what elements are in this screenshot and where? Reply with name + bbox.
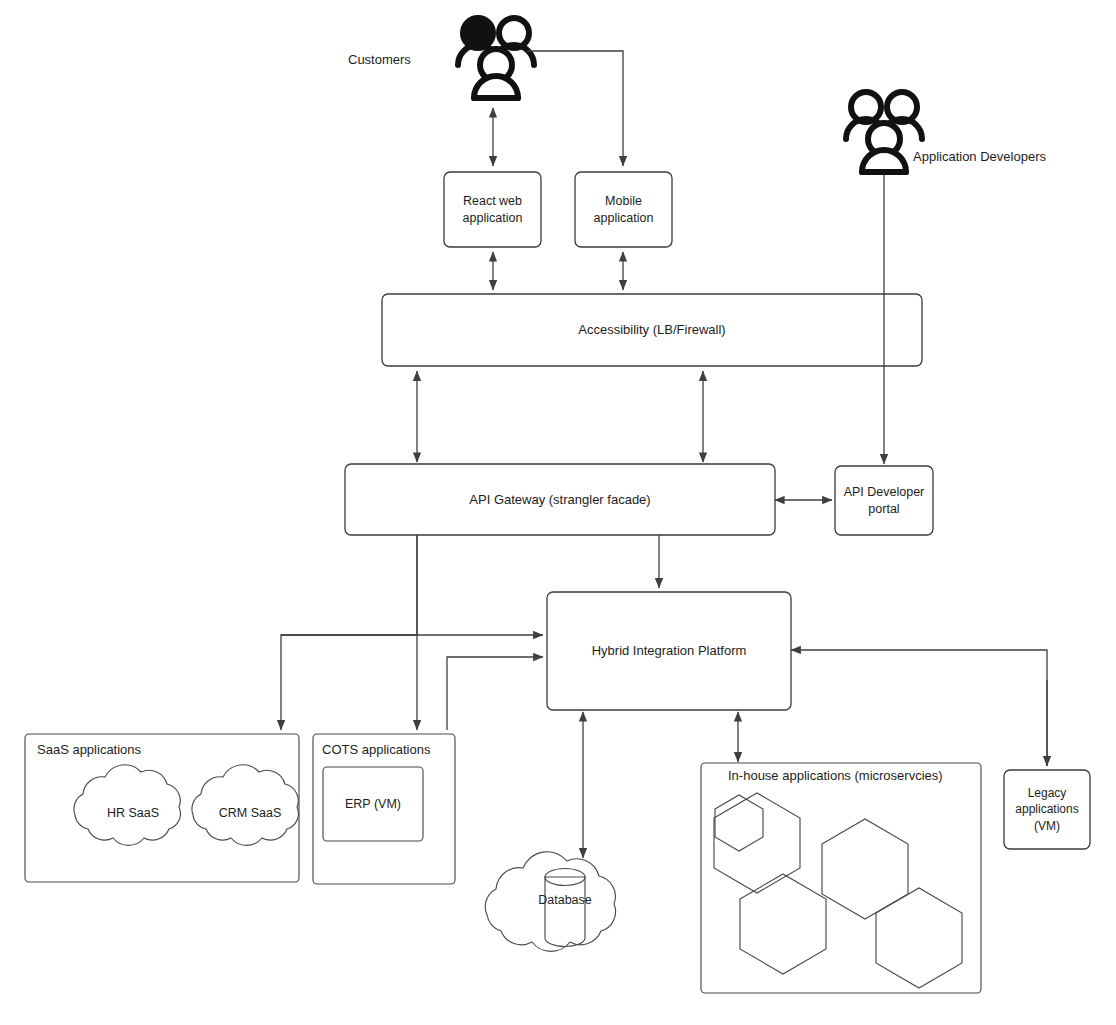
actor-label-customers: Customers xyxy=(348,52,411,67)
node-hybrid-integration-platform[interactable] xyxy=(547,592,791,710)
group-label-cots: COTS applications xyxy=(322,742,430,757)
edge-legacy-hip xyxy=(791,650,1047,766)
node-mobile-application[interactable] xyxy=(575,172,672,247)
node-legacy-applications[interactable] xyxy=(1004,770,1090,849)
people-group-icon-developers xyxy=(846,92,922,172)
node-accessibility[interactable] xyxy=(382,294,922,366)
node-api-gateway[interactable] xyxy=(345,464,775,535)
node-erp-vm[interactable] xyxy=(323,767,423,841)
people-group-icon-customers xyxy=(458,18,534,98)
node-microservice-2[interactable] xyxy=(822,819,908,919)
node-api-developer-portal[interactable] xyxy=(835,466,933,535)
architecture-diagram: Customers Application Developers React w… xyxy=(0,0,1116,1025)
node-microservice-4[interactable] xyxy=(876,888,962,988)
edge-gateway-saas xyxy=(281,535,417,730)
node-react-web-application[interactable] xyxy=(444,172,541,247)
actor-label-app-developers: Application Developers xyxy=(913,149,1046,164)
node-database-cloud[interactable] xyxy=(485,852,615,952)
edge-cots-hip xyxy=(447,657,543,730)
edge-customers-mobile xyxy=(527,51,623,166)
group-label-saas: SaaS applications xyxy=(37,742,141,757)
node-microservice-1-shape[interactable] xyxy=(714,793,800,893)
node-hr-saas[interactable] xyxy=(74,765,181,846)
group-label-inhouse: In-house applications (microservcies) xyxy=(728,768,943,783)
node-microservice-3[interactable] xyxy=(740,874,826,974)
node-crm-saas[interactable] xyxy=(192,765,299,846)
